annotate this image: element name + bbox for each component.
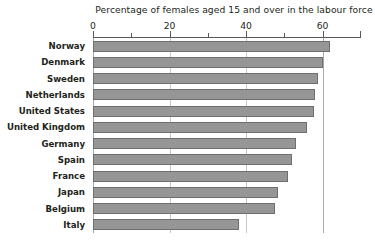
- chart-title: Percentage of females aged 15 and over i…: [95, 4, 373, 16]
- category-label: United Kingdom: [7, 122, 85, 132]
- x-tick-mark: [93, 31, 94, 37]
- category-label: Netherlands: [26, 90, 85, 100]
- x-tick-mark-minor: [284, 33, 285, 37]
- bar: [93, 73, 318, 84]
- x-tick-mark-minor: [208, 33, 209, 37]
- x-axis-tick-labels: 0204060: [0, 20, 375, 32]
- gridline: [323, 38, 324, 233]
- category-label: Sweden: [47, 74, 85, 84]
- bar-chart: Percentage of females aged 15 and over i…: [0, 0, 375, 243]
- bar: [93, 171, 288, 182]
- bar: [93, 154, 292, 165]
- bar: [93, 138, 296, 149]
- plot-area: [93, 38, 361, 233]
- bar: [93, 106, 314, 117]
- bar: [93, 187, 278, 198]
- bar: [93, 203, 275, 214]
- category-label: Spain: [58, 155, 85, 165]
- x-tick-mark-minor: [131, 33, 132, 37]
- x-tick-mark: [246, 31, 247, 37]
- category-label: Italy: [63, 220, 85, 230]
- y-axis-category-labels: NorwayDenmarkSwedenNetherlandsUnited Sta…: [0, 38, 89, 233]
- category-label: France: [53, 171, 85, 181]
- category-label: Belgium: [46, 204, 86, 214]
- bar: [93, 122, 307, 133]
- x-axis-end-tick: [360, 31, 361, 37]
- category-label: Germany: [41, 139, 85, 149]
- bar: [93, 219, 239, 230]
- category-label: Japan: [58, 187, 85, 197]
- category-label: United States: [19, 106, 85, 116]
- bar: [93, 57, 323, 68]
- category-label: Denmark: [41, 57, 85, 67]
- bar: [93, 89, 315, 100]
- x-tick-mark: [170, 31, 171, 37]
- category-label: Norway: [49, 41, 85, 51]
- x-tick-mark: [323, 31, 324, 37]
- bar: [93, 41, 330, 52]
